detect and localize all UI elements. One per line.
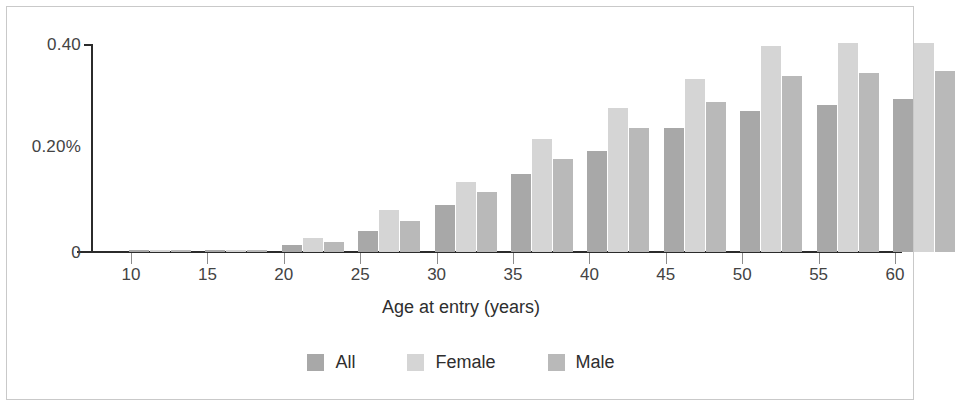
bar-female-age-10 (150, 250, 170, 252)
x-axis-tick-label-10: 10 (106, 265, 156, 285)
bar-male-age-50 (782, 76, 802, 252)
bar-group-age-30 (435, 39, 497, 252)
bar-female-age-30 (456, 182, 476, 252)
x-axis-tick-55 (819, 253, 820, 264)
bar-male-age-30 (477, 192, 497, 252)
bar-female-age-40 (608, 108, 628, 252)
x-axis-tick-60 (895, 253, 896, 264)
bar-all-age-20 (282, 245, 302, 252)
legend-item-all: All (307, 352, 355, 373)
bar-male-age-10 (171, 250, 191, 252)
bar-all-age-30 (435, 205, 455, 252)
bar-all-age-45 (664, 128, 684, 252)
bar-female-age-35 (532, 139, 552, 252)
bar-female-age-25 (379, 210, 399, 252)
bar-group-age-25 (358, 39, 420, 252)
legend-swatch-male-icon (548, 354, 565, 371)
y-axis-label-0: 0 (7, 243, 81, 263)
chart-legend: AllFemaleMale (7, 352, 915, 373)
bar-all-age-15 (205, 250, 225, 252)
x-axis-tick-label-55: 55 (794, 265, 844, 285)
bar-all-age-10 (129, 250, 149, 252)
x-axis-tick-label-60: 60 (870, 265, 920, 285)
bar-male-age-35 (553, 159, 573, 252)
x-axis-tick-45 (666, 253, 667, 264)
legend-label-male: Male (576, 352, 615, 373)
x-axis-tick-label-25: 25 (335, 265, 385, 285)
bar-group-age-40 (587, 39, 649, 252)
bar-group-age-45 (664, 39, 726, 252)
bar-male-age-20 (324, 242, 344, 252)
x-axis-tick-20 (284, 253, 285, 264)
x-axis-tick-label-35: 35 (488, 265, 538, 285)
plot-area (91, 39, 901, 252)
x-axis-tick-label-20: 20 (259, 265, 309, 285)
legend-label-female: Female (435, 352, 495, 373)
y-axis-label-0.20: 0.20% (7, 137, 81, 157)
bar-all-age-35 (511, 174, 531, 252)
legend-label-all: All (335, 352, 355, 373)
bar-male-age-55 (859, 73, 879, 252)
x-axis-tick-label-50: 50 (717, 265, 767, 285)
bar-female-age-15 (226, 250, 246, 252)
x-axis-tick-label-15: 15 (182, 265, 232, 285)
x-axis-tick-40 (589, 253, 590, 264)
bar-female-age-20 (303, 238, 323, 252)
bar-group-age-20 (282, 39, 344, 252)
bar-all-age-40 (587, 151, 607, 252)
bar-group-age-10 (129, 39, 191, 252)
x-axis-title: Age at entry (years) (7, 297, 915, 318)
bar-group-age-55 (817, 39, 879, 252)
bar-male-age-60 (935, 71, 955, 252)
bar-all-age-55 (817, 105, 837, 253)
bar-all-age-50 (740, 111, 760, 252)
bar-all-age-60 (893, 99, 913, 252)
bar-male-age-25 (400, 221, 420, 252)
legend-swatch-all-icon (307, 354, 324, 371)
bar-female-age-45 (685, 79, 705, 252)
bar-male-age-40 (629, 128, 649, 252)
x-axis-tick-25 (360, 253, 361, 264)
chart-figure: 0.40 0.20% 0 1015202530354045505560 Age … (6, 6, 914, 400)
bar-all-age-25 (358, 231, 378, 252)
bar-male-age-45 (706, 102, 726, 252)
bar-group-age-50 (740, 39, 802, 252)
bar-female-age-55 (838, 43, 858, 252)
x-axis-tick-50 (742, 253, 743, 264)
bar-group-age-15 (205, 39, 267, 252)
x-axis-tick-label-45: 45 (641, 265, 691, 285)
x-axis-tick-15 (207, 253, 208, 264)
y-axis-label-0.40: 0.40 (7, 35, 81, 55)
bar-group-age-60 (893, 39, 955, 252)
bar-male-age-15 (247, 250, 267, 252)
x-axis-tick-30 (437, 253, 438, 264)
x-axis-tick-35 (513, 253, 514, 264)
x-axis-tick-10 (131, 253, 132, 264)
bar-female-age-60 (914, 43, 934, 252)
x-axis-tick-label-30: 30 (412, 265, 462, 285)
bar-group-age-35 (511, 39, 573, 252)
bar-female-age-50 (761, 46, 781, 252)
legend-swatch-female-icon (407, 354, 424, 371)
legend-item-male: Male (548, 352, 615, 373)
x-axis-tick-label-40: 40 (564, 265, 614, 285)
legend-item-female: Female (407, 352, 495, 373)
